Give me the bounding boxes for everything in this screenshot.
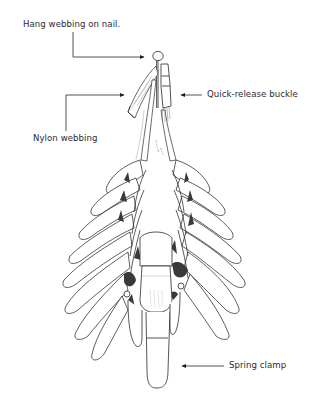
clamp-rack-illustration: [0, 0, 312, 408]
label-spring-clamp: Spring clamp: [229, 360, 286, 370]
clamp-stack-right: [172, 160, 245, 339]
label-quick-release-buckle: Quick-release buckle: [207, 89, 298, 99]
buckle: [161, 64, 171, 122]
illustration-canvas: Hang webbing on nail. Quick-release buck…: [0, 0, 312, 408]
spring-clamp-front: [124, 232, 184, 388]
nail-callout-arrow: [73, 32, 144, 57]
label-hang-webbing-on-nail: Hang webbing on nail.: [23, 19, 120, 29]
nylon-callout-arrow: [66, 95, 124, 131]
label-nylon-webbing: Nylon webbing: [33, 133, 98, 143]
